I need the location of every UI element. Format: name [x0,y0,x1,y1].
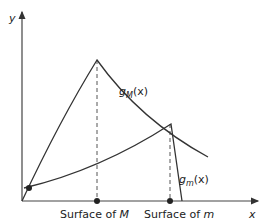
intersection-dot [26,185,32,191]
gM-label: gM(x) [119,85,148,100]
surface-m-label: Surface of m [144,208,214,221]
gm-label: gm(x) [179,173,209,188]
x-axis-label: x [248,208,256,221]
y-axis-label: y [8,12,16,25]
surface-m-dot [167,198,173,204]
gm-curve [24,124,182,201]
surface-M-label: Surface of M [60,208,130,221]
gravity-diagram: y x gM(x) gm(x) Surface of M Surface of … [0,0,273,224]
surface-M-dot [94,198,100,204]
